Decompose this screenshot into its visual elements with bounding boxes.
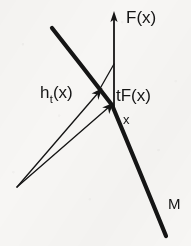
- diagram-drawing: [0, 0, 191, 246]
- label-scaled-vector-field: tF(x): [116, 87, 151, 104]
- label-flow-map-argument: (x): [53, 83, 73, 102]
- label-point-x: x: [123, 113, 130, 126]
- manifold-curve-M: [52, 28, 166, 236]
- vector-tF-connector: [100, 64, 115, 90]
- label-scaled-vector-field-body: F(x): [121, 86, 151, 105]
- label-manifold-m: M: [168, 196, 181, 211]
- figure-canvas: F(x) tF(x) ht(x) x M: [0, 0, 191, 246]
- label-vector-field: F(x): [126, 9, 156, 26]
- flow-arrow-ht-shaft: [17, 93, 98, 187]
- flow-arrow-x-shaft: [17, 107, 109, 187]
- label-flow-map: ht(x): [40, 84, 73, 105]
- label-flow-map-base: h: [40, 83, 49, 102]
